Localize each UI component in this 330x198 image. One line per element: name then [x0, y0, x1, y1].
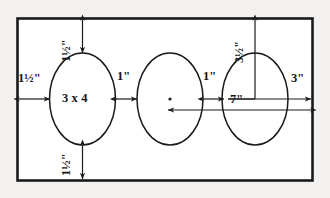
technical-drawing-svg: [0, 0, 330, 198]
ellipse-size-label: 3 x 4: [62, 92, 88, 105]
right-margin-dimension-label: 3": [291, 72, 304, 85]
gap-middle-right-dimension-label: 1": [203, 70, 216, 83]
top-to-right-ellipse-dimension-label: 3½": [233, 41, 245, 63]
gap-left-middle-dimension-label: 1": [117, 70, 130, 83]
bottom-margin-dimension-label: 1½": [60, 153, 73, 176]
top-margin-dimension-label: 1½": [60, 39, 73, 62]
left-margin-dimension-label: 1½": [18, 72, 41, 85]
center-dot-icon: [168, 97, 171, 100]
center-to-right-dimension-label: 7": [230, 93, 243, 106]
drawing-canvas: 1½" 1½" 1½" 3 x 4 1" 1" 3½" 7" 3": [0, 0, 330, 198]
